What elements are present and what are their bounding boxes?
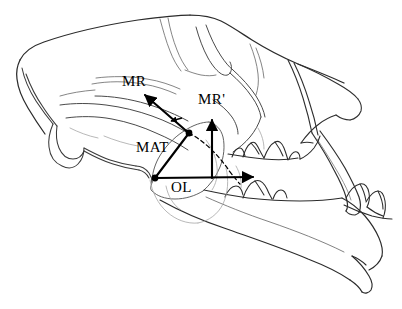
cranial-sutures <box>60 18 264 96</box>
label-mat: MAT <box>136 140 169 155</box>
mr-vector-arrow <box>145 95 191 135</box>
upper-tooth-row <box>228 136 320 160</box>
skull-line-drawing <box>0 0 402 309</box>
label-mr-prime: MR' <box>198 92 225 107</box>
muscle-insertion-point <box>186 130 193 137</box>
label-mr: MR <box>122 74 146 89</box>
label-ol: OL <box>171 180 192 195</box>
lower-tooth-row <box>225 180 392 219</box>
rostrum-maxilla <box>288 60 361 143</box>
orbit-and-postorbital <box>196 25 265 152</box>
saber-canine <box>312 131 361 215</box>
skull-biomechanics-figure: MR MR' MAT OL <box>0 0 402 309</box>
mandible-body <box>160 190 382 293</box>
jaw-joint-point <box>152 175 159 182</box>
ol-vector-arrow <box>155 177 253 178</box>
